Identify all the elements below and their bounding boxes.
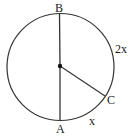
center-point: [58, 64, 62, 68]
arc-label-AC: x: [89, 114, 95, 128]
arc-label-BC: 2x: [115, 42, 127, 56]
label-C: C: [107, 93, 115, 107]
radius-to-C: [60, 66, 105, 96]
circle-diagram: B A C 2x x: [0, 0, 129, 136]
radius-to-B: [60, 14, 61, 67]
label-A: A: [56, 122, 65, 136]
label-B: B: [55, 1, 63, 15]
